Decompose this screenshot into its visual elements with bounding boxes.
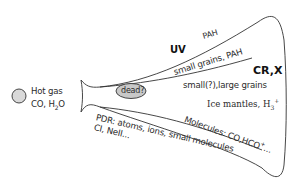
species-suffix: O [58, 99, 65, 109]
grains-label: small(?),large grains [183, 81, 267, 90]
ice-subscript: 3 [271, 104, 275, 111]
dead-core-label: dead? [121, 87, 144, 95]
funnel-shape [81, 16, 286, 176]
ice-superscript: + [274, 97, 279, 104]
crx-label: CR,X [253, 65, 282, 76]
hot-gas-label: Hot gas [31, 87, 63, 96]
species-prefix: CO, H [31, 99, 55, 109]
hot-gas-species-label: CO, H2O [31, 100, 65, 111]
ice-mantles-label: Ice mantles, H3+ [207, 98, 279, 111]
uv-label: UV [170, 45, 186, 55]
ice-prefix: Ice mantles, H [207, 99, 271, 109]
diagram-canvas: Hot gas CO, H2O dead? UV PAH small grain… [0, 0, 302, 184]
hot-gas-circle [12, 89, 26, 103]
